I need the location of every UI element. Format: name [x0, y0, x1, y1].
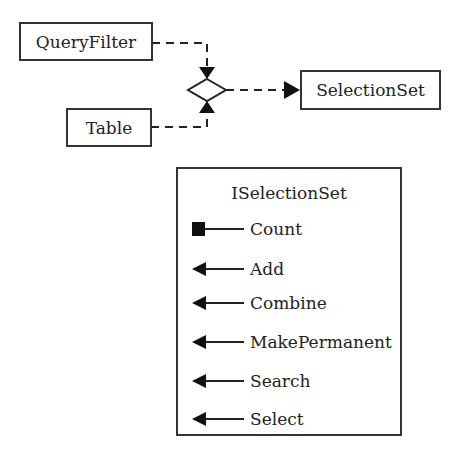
member-label: Count — [250, 219, 302, 239]
member-label: Search — [250, 371, 310, 391]
member-count: Count — [190, 217, 302, 241]
arrow-method-icon — [190, 407, 248, 431]
arrow-down-icon — [199, 67, 215, 79]
member-label: Add — [250, 259, 284, 279]
class-box-selectionset: SelectionSet — [300, 70, 441, 110]
member-add: Add — [190, 257, 284, 281]
square-property-icon — [190, 217, 248, 241]
class-box-table: Table — [66, 108, 152, 147]
interface-title: ISelectionSet — [178, 183, 400, 203]
arrow-method-icon — [190, 291, 248, 315]
arrow-method-icon — [190, 330, 248, 354]
queryfilter-connector — [152, 43, 207, 67]
diamond-junction-icon — [188, 79, 226, 101]
member-label: MakePermanent — [250, 332, 392, 352]
member-label: Combine — [250, 293, 327, 313]
member-select: Select — [190, 407, 304, 431]
member-makepermanent: MakePermanent — [190, 330, 392, 354]
table-connector — [151, 113, 207, 127]
member-label: Select — [250, 409, 304, 429]
arrow-method-icon — [190, 369, 248, 393]
arrow-right-icon — [284, 81, 300, 99]
class-box-queryfilter: QueryFilter — [19, 22, 153, 61]
arrow-method-icon — [190, 257, 248, 281]
class-label: Table — [86, 118, 133, 138]
arrow-up-icon — [199, 101, 215, 113]
interface-box: ISelectionSet Count Add Combine MakePerm… — [176, 167, 402, 436]
class-label: QueryFilter — [36, 32, 136, 52]
member-combine: Combine — [190, 291, 327, 315]
class-label: SelectionSet — [316, 80, 425, 100]
member-search: Search — [190, 369, 310, 393]
